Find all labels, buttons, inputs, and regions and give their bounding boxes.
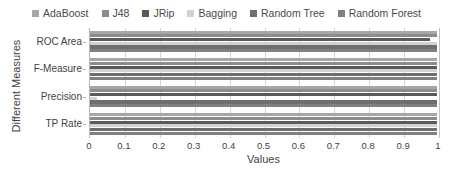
bar [90,66,437,69]
legend-item-bagging[interactable]: Bagging [187,8,237,19]
bar [90,104,437,107]
bar [90,93,437,96]
x-axis-tick-label: 0.8 [362,140,375,152]
legend-item-label: Bagging [198,8,237,19]
chart-legend: AdaBoostJ48JRipBaggingRandom TreeRandom … [0,6,453,21]
y-axis-tick-mark [83,42,86,43]
bar [90,77,437,80]
bar [90,121,437,124]
x-axis-tick-label: 0.9 [396,140,409,152]
bar [90,31,437,34]
legend-item-random-forest[interactable]: Random Forest [338,8,421,19]
bar [90,62,437,65]
y-axis-label-roc-area: ROC Area [36,36,82,47]
x-axis-tick-label: 0.2 [152,140,165,152]
plot-area [89,28,438,138]
bar-group-roc-area [90,28,438,56]
bar [90,100,437,103]
bar [90,124,437,127]
gridline [439,28,440,138]
legend-item-j48[interactable]: J48 [102,8,130,19]
y-axis-label-precision: Precision [41,91,82,102]
y-axis-title: Different Measures [10,31,22,141]
legend-item-label: Random Forest [349,8,421,19]
bar [90,49,437,52]
legend-item-jrip[interactable]: JRip [142,8,174,19]
bar [90,69,437,72]
y-axis-tick-mark [83,124,86,125]
legend-item-label: AdaBoost [43,8,89,19]
bar [90,89,437,92]
y-axis-label-tp-rate: TP Rate [46,118,83,129]
bar [90,113,437,116]
legend-item-adaboost[interactable]: AdaBoost [32,8,89,19]
legend-swatch-icon [250,10,257,17]
bar [90,128,437,131]
legend-item-random-tree[interactable]: Random Tree [250,8,325,19]
bar [90,42,437,45]
x-axis-tick-label: 1 [435,140,440,152]
legend-swatch-icon [338,10,345,17]
bar-group-f-measure [90,56,438,84]
x-axis-tick-label: 0.1 [117,140,130,152]
legend-swatch-icon [142,10,149,17]
y-axis-title-wrapper: Different Measures [2,28,18,138]
bar [90,58,437,61]
legend-swatch-icon [102,10,109,17]
bar-group-precision [90,83,438,111]
x-axis-tick-label: 0.7 [327,140,340,152]
bar-series-container [90,28,438,138]
x-axis-title: Values [89,153,438,166]
y-axis-label-f-measure: F-Measure [34,63,82,74]
x-axis-tick-label: 0.6 [292,140,305,152]
bar [90,97,97,100]
bar-group-tp-rate [90,111,438,139]
bar [90,117,437,120]
legend-item-label: J48 [113,8,130,19]
bar [90,38,430,41]
y-axis-tick-mark [83,97,86,98]
bar [90,73,437,76]
x-axis-tick-label: 0.3 [187,140,200,152]
y-axis-tick-mark [83,69,86,70]
bar [90,45,437,48]
legend-item-label: JRip [153,8,174,19]
legend-swatch-icon [187,10,194,17]
bar [90,86,437,89]
x-axis-tick-labels: 00.10.20.30.40.50.60.70.80.91 [89,140,438,153]
bar [90,34,437,37]
legend-item-label: Random Tree [261,8,325,19]
bar [90,132,437,135]
x-axis-tick-label: 0 [86,140,91,152]
x-axis-tick-label: 0.4 [222,140,235,152]
bar-chart: AdaBoostJ48JRipBaggingRandom TreeRandom … [0,0,453,171]
x-axis-tick-label: 0.5 [257,140,270,152]
legend-swatch-icon [32,10,39,17]
